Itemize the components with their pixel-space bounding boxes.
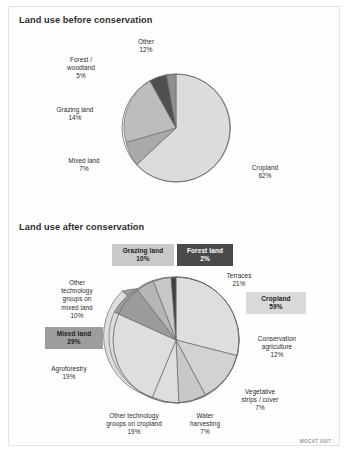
label-before-other: Other 12%	[118, 38, 174, 54]
label-after-cropland: Cropland 59%	[246, 292, 306, 314]
section-title-after: Land use after conservation	[19, 222, 144, 232]
label-before-forest-woodland: Forest / woodland 5%	[50, 56, 112, 81]
source-credit: WOCAT 2007	[299, 439, 331, 444]
label-after-mixed-land: Mixed land 29%	[45, 327, 103, 349]
label-after-terraces: Terraces 21%	[215, 272, 263, 288]
label-after-grazing-land: Grazing land 10%	[112, 244, 174, 266]
figure-page: Land use before conservation Land use af…	[0, 0, 348, 453]
label-after-water-harvesting: Water harvesting 7%	[180, 412, 230, 437]
label-before-cropland: Cropland 62%	[236, 164, 294, 180]
label-after-conservation-agriculture: Conservation agriculture 12%	[245, 335, 309, 360]
label-before-mixed-land: Mixed land 7%	[55, 157, 113, 173]
label-after-forest-land: Forest land 2%	[177, 244, 233, 266]
label-after-vegetative-strips: Vegetative strips / cover 7%	[229, 388, 291, 413]
section-title-before: Land use before conservation	[19, 15, 153, 25]
label-after-other-tech-cropland: Other technology groups on cropland 19%	[92, 412, 176, 437]
label-after-other-tech-mixed-land: Other technology groups on mixed land 10…	[48, 279, 106, 320]
label-after-agroforestry: Agroforestry 19%	[40, 365, 98, 381]
label-before-grazing-land: Grazing land 14%	[42, 106, 108, 122]
